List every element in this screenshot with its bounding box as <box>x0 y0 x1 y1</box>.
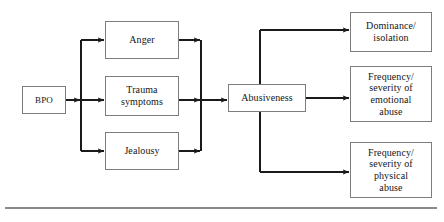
node-physical-abuse-label: Frequency/ severity of physical abuse <box>368 147 414 193</box>
node-jealousy-label: Jealousy <box>124 145 159 157</box>
node-trauma-symptoms[interactable]: Trauma symptoms <box>105 76 179 116</box>
node-abusiveness-label: Abusiveness <box>241 92 293 104</box>
node-anger-label: Anger <box>129 34 155 46</box>
node-physical-abuse[interactable]: Frequency/ severity of physical abuse <box>350 142 432 198</box>
node-trauma-symptoms-label: Trauma symptoms <box>121 84 163 107</box>
node-emotional-abuse[interactable]: Frequency/ severity of emotional abuse <box>350 66 432 122</box>
node-abusiveness[interactable]: Abusiveness <box>228 84 306 112</box>
figure-bottom-rule <box>5 207 437 209</box>
node-emotional-abuse-label: Frequency/ severity of emotional abuse <box>368 71 414 117</box>
node-bpo[interactable]: BPO <box>22 86 66 114</box>
node-dominance-isolation[interactable]: Dominance/ isolation <box>350 12 432 52</box>
node-bpo-label: BPO <box>35 95 53 105</box>
node-anger[interactable]: Anger <box>105 21 179 59</box>
node-dominance-isolation-label: Dominance/ isolation <box>366 20 416 43</box>
diagram-canvas: BPO Anger Trauma symptoms Jealousy Abusi… <box>0 0 444 222</box>
node-jealousy[interactable]: Jealousy <box>105 132 179 170</box>
